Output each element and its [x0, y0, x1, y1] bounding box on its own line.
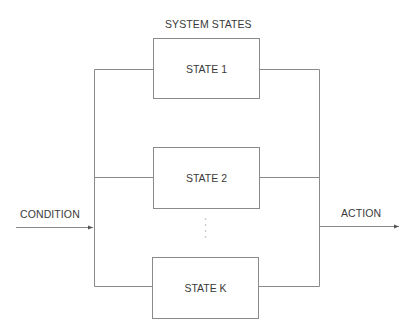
state-label: STATE 1 — [186, 63, 227, 75]
input-label: CONDITION — [20, 208, 80, 220]
state-box-1: STATE 1 — [153, 38, 260, 99]
output-label: ACTION — [341, 207, 381, 219]
state-box-k: STATE K — [152, 257, 259, 319]
ellipsis-dots — [205, 218, 207, 238]
state-label: STATE 2 — [186, 172, 227, 184]
diagram-title: SYSTEM STATES — [165, 18, 252, 30]
state-box-2: STATE 2 — [153, 147, 260, 209]
state-label: STATE K — [184, 282, 226, 294]
